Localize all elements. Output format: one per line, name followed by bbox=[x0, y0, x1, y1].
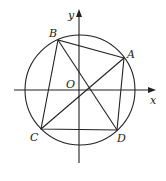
point-b-label: B bbox=[48, 27, 57, 40]
point-a-label: A bbox=[126, 48, 135, 61]
x-axis-label: x bbox=[150, 94, 157, 107]
x-axis-arrow-icon bbox=[148, 87, 156, 93]
y-axis-label: y bbox=[67, 9, 75, 22]
diagonal-ac bbox=[41, 58, 124, 129]
point-c-label: C bbox=[30, 131, 39, 144]
y-axis-arrow-icon bbox=[76, 9, 82, 17]
point-d-label: D bbox=[116, 132, 126, 145]
origin-label: O bbox=[66, 78, 75, 91]
quadrilateral-abcd bbox=[41, 40, 124, 130]
coordinate-diagram: y x O A B C D bbox=[0, 0, 166, 181]
